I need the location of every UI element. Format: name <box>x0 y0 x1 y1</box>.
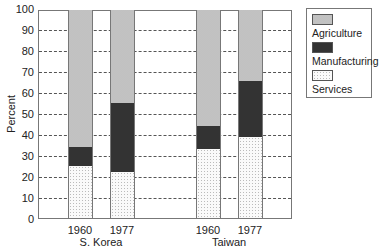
segment-agriculture <box>111 10 134 103</box>
segment-agriculture <box>69 10 92 147</box>
x-tick: 1960 <box>188 224 228 236</box>
y-tick: 80 <box>8 46 34 57</box>
x-tick: 1977 <box>230 224 270 236</box>
y-tick: 30 <box>8 151 34 162</box>
bar-taiwan-1977 <box>238 10 263 218</box>
segment-agriculture <box>239 10 262 81</box>
legend-label: Services <box>312 83 352 95</box>
legend-swatch-agriculture <box>312 14 333 25</box>
segment-manufacturing <box>197 126 220 149</box>
legend-label: Agriculture <box>312 27 362 39</box>
bar-skorea-1960 <box>68 10 93 218</box>
segment-services <box>111 172 134 218</box>
legend-label: Manufacturing <box>312 55 379 67</box>
segment-services <box>239 137 262 218</box>
y-tick: 50 <box>8 109 34 120</box>
bar-taiwan-1960 <box>196 10 221 218</box>
segment-agriculture <box>197 10 220 126</box>
segment-manufacturing <box>239 81 262 137</box>
y-tick: 10 <box>8 193 34 204</box>
legend-swatch-services <box>312 70 333 81</box>
y-tick: 100 <box>8 4 34 15</box>
y-tick: 70 <box>8 67 34 78</box>
y-tick: 90 <box>8 25 34 36</box>
x-group-label: S. Korea <box>66 236 136 248</box>
y-tick: 0 <box>8 214 34 225</box>
y-tick: 60 <box>8 88 34 99</box>
segment-manufacturing <box>69 147 92 166</box>
y-tick: 40 <box>8 130 34 141</box>
segment-services <box>197 149 220 218</box>
plot-area <box>38 10 292 219</box>
legend: Agriculture Manufacturing Services <box>306 8 372 98</box>
legend-swatch-manufacturing <box>312 42 333 53</box>
y-tick: 20 <box>8 172 34 183</box>
segment-manufacturing <box>111 103 134 172</box>
segment-services <box>69 166 92 218</box>
x-tick: 1977 <box>102 224 142 236</box>
x-group-label: Taiwan <box>194 236 264 248</box>
bar-skorea-1977 <box>110 10 135 218</box>
x-tick: 1960 <box>60 224 100 236</box>
